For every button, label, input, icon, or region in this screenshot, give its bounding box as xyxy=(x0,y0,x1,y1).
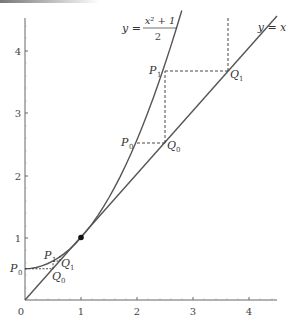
identity-line-label: y = x xyxy=(257,21,287,34)
y-tick-4: 4 xyxy=(15,46,21,57)
lower-P0-label: P 0 xyxy=(9,262,22,277)
lower-Q1-label: Q 1 xyxy=(61,257,74,272)
x-tick-1: 1 xyxy=(78,306,84,317)
lower-P1-label: P 1 xyxy=(43,249,56,264)
y-tick-3: 3 xyxy=(15,108,21,119)
svg-text:1: 1 xyxy=(52,256,56,264)
svg-text:0: 0 xyxy=(129,143,133,151)
lower-Q0-label: Q 0 xyxy=(52,270,65,285)
curve-label-y: y = xyxy=(121,22,141,35)
svg-text:1: 1 xyxy=(70,264,74,272)
x-tick-3: 3 xyxy=(190,306,196,317)
upper-P1-label: P 1 xyxy=(148,64,161,79)
parabola-label: y = x² + 1 2 xyxy=(121,15,177,42)
cobweb-diagram: 0 1 2 3 4 1 2 3 4 y = x² + 1 2 y = x P 0… xyxy=(0,0,302,325)
svg-text:Q: Q xyxy=(52,270,61,283)
svg-text:1: 1 xyxy=(157,71,161,79)
svg-text:0: 0 xyxy=(18,269,22,277)
svg-text:Q: Q xyxy=(167,139,176,152)
curve-label-numerator: x² + 1 xyxy=(145,15,176,26)
upper-Q1-label: Q 1 xyxy=(230,68,243,83)
x-tick-2: 2 xyxy=(134,306,140,317)
upper-P0-label: P 0 xyxy=(120,136,133,151)
origin-label: 0 xyxy=(18,306,24,317)
svg-text:P: P xyxy=(148,64,157,77)
svg-text:0: 0 xyxy=(61,277,65,285)
x-tick-4: 4 xyxy=(246,306,252,317)
curve-label-denominator: 2 xyxy=(155,31,161,42)
svg-text:P: P xyxy=(43,249,52,262)
svg-text:Q: Q xyxy=(61,257,70,270)
upper-Q0-label: Q 0 xyxy=(167,139,180,154)
svg-text:P: P xyxy=(9,262,18,275)
y-tick-2: 2 xyxy=(15,171,21,182)
svg-text:P: P xyxy=(120,136,129,149)
svg-text:1: 1 xyxy=(239,75,243,83)
svg-text:Q: Q xyxy=(230,68,239,81)
fixed-point-dot xyxy=(78,235,84,241)
svg-text:0: 0 xyxy=(176,146,180,154)
upper-cobweb xyxy=(137,16,228,143)
parabola-curve xyxy=(25,11,182,269)
y-tick-1: 1 xyxy=(15,233,21,244)
